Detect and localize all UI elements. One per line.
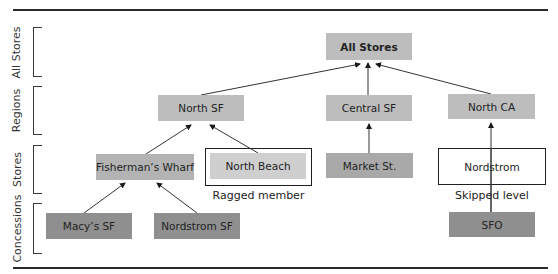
ragged-member-caption: Ragged member xyxy=(205,189,312,202)
edge-nordstromsf-fishermans xyxy=(157,183,197,213)
node-market-st: Market St. xyxy=(326,153,413,178)
node-north-ca: North CA xyxy=(448,94,535,119)
node-north-sf: North SF xyxy=(158,95,244,121)
edge-fishermans-northsf xyxy=(146,125,191,154)
node-sfo: SFO xyxy=(449,212,535,237)
node-nordstrom-sf: Nordstrom SF xyxy=(154,213,240,239)
edge-northbeach-northsf xyxy=(210,125,258,153)
skipped-level-caption: Skipped level xyxy=(438,189,546,202)
node-north-beach: North Beach xyxy=(210,153,306,179)
node-fishermans-wharf: Fisherman’s Wharf xyxy=(96,154,194,180)
node-central-sf: Central SF xyxy=(326,95,412,121)
node-all-stores: All Stores xyxy=(326,33,412,60)
edge-northca-allstores xyxy=(376,64,491,94)
edge-northsf-allstores xyxy=(201,64,360,95)
edge-macys-fishermans xyxy=(84,183,125,213)
node-macys-sf: Macy’s SF xyxy=(46,213,132,239)
node-nordstrom: Nordstrom xyxy=(440,150,544,183)
